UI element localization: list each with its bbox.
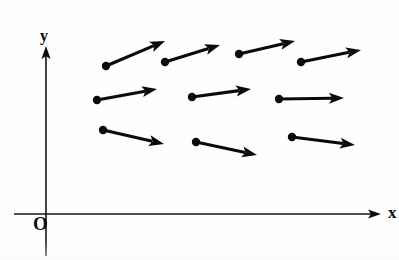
field-vector: [297, 48, 361, 67]
field-vector: [161, 44, 220, 66]
figure-canvas: x y O: [0, 0, 399, 260]
vector-shaft: [239, 44, 283, 54]
vector-shaft: [196, 142, 245, 153]
x-axis-label: x: [388, 203, 397, 222]
vector-shaft: [301, 52, 349, 62]
field-vector: [99, 126, 164, 146]
field-vector: [275, 93, 344, 104]
vector-base-point: [297, 58, 305, 66]
y-axis-label: y: [40, 27, 48, 45]
vector-base-point: [161, 58, 169, 66]
field-vector: [93, 86, 157, 104]
vector-base-point: [235, 50, 243, 58]
field-vector: [188, 86, 251, 102]
vector-shaft: [106, 46, 154, 66]
vector-base-point: [192, 138, 200, 146]
vector-shaft: [279, 98, 332, 99]
field-vector: [102, 41, 165, 70]
origin-label: O: [33, 213, 48, 234]
vector-base-point: [288, 133, 296, 141]
vector-shaft: [97, 91, 145, 100]
vector-shaft: [103, 130, 152, 141]
field-vector: [288, 133, 355, 149]
vector-base-point: [102, 62, 110, 70]
vector-shaft: [192, 91, 239, 97]
vector-field-group: [93, 39, 361, 157]
field-vector: [192, 138, 257, 157]
vector-base-point: [93, 96, 101, 104]
vector-shaft: [292, 137, 343, 143]
vector-shaft: [165, 49, 209, 62]
vector-base-point: [275, 95, 283, 103]
vector-base-point: [99, 126, 107, 134]
vector-base-point: [188, 93, 196, 101]
field-vector: [235, 39, 295, 58]
direction-field-figure: x y O: [0, 0, 399, 260]
axes-group: [14, 46, 381, 256]
